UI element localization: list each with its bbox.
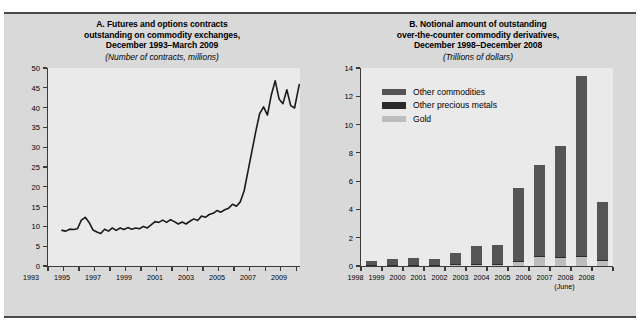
panel-b-subtitle: (Trillions of dollars) [320,52,636,62]
panel-b-x-tick [612,267,613,271]
panel-a: A. Futures and options contracts outstan… [4,14,320,316]
panel-a-y-tick [43,147,47,148]
legend-item-other-commodities: Other commodities [382,86,497,98]
panel-a-x-tick-label: 2005 [200,273,234,282]
panel-a-y-tick-label: 25 [18,163,40,172]
panel-a-y-tick [43,127,47,128]
bar-segment [450,253,462,264]
panel-a-line-svg [48,68,300,266]
panel-a-y-tick-label: 5 [18,242,40,251]
bar-segment [576,256,588,257]
panel-a-x-tick-label: 1999 [107,273,141,282]
panel-b-x-tick [381,267,382,271]
panel-a-x-tick [187,267,188,271]
panel-a-x-tick [265,267,266,271]
bar-segment [597,202,609,259]
legend-label-other-commodities: Other commodities [413,87,485,97]
panel-b-x-tick [486,267,487,271]
panel-a-plot-area [48,68,300,266]
bar-segment [450,264,462,265]
panel-a-x-tick-label: 2009 [262,273,296,282]
legend-item-other-precious-metals: Other precious metals [382,100,497,112]
bar-segment [555,258,567,266]
panel-a-subtitle: (Number of contracts, millions) [4,52,320,62]
panel-a-x-tick-label: 2007 [231,273,265,282]
panel-b-y-tick [356,67,360,68]
bar-segment [534,256,546,257]
panel-a-y-tick [43,265,47,266]
bar-segment [534,257,546,266]
legend-item-gold: Gold [382,113,497,125]
panel-a-title-line2: outstanding on commodity exchanges, [4,30,320,41]
panel-b-title-line3: December 1998–December 2008 [320,40,636,51]
panel-b-y-axis [360,68,361,266]
panel-a-x-tick-label: 1997 [76,273,110,282]
panel-a-x-tick [171,267,172,271]
panel-b-x-tick [402,267,403,271]
bar-segment [408,258,420,265]
panel-b-y-tick-label: 4 [331,205,353,214]
legend-label-gold: Gold [413,114,431,124]
panel-b-x-tick [423,267,424,271]
panel-a-x-tick [296,267,297,271]
panel-a-y-tick [43,206,47,207]
panel-b-y-tick-label: 0 [331,262,353,271]
panel-a-x-tick [249,267,250,271]
panel-b-y-tick-label: 6 [331,177,353,186]
bar-segment [366,261,378,265]
panel-b-y-tick [356,96,360,97]
panel-b-y-tick [356,265,360,266]
panel-a-x-tick [218,267,219,271]
panel-a-y-tick [43,246,47,247]
bar-segment [555,146,567,257]
panel-a-y-tick-label: 10 [18,222,40,231]
panel-a-title-line1: A. Futures and options contracts [4,19,320,30]
panel-b-y-tick [356,237,360,238]
panel-b-y-tick [356,209,360,210]
panel-b-x-tick [465,267,466,271]
panel-b-title-line1: B. Notional amount of outstanding [320,19,636,30]
bar-segment [492,245,504,263]
panel-a-x-tick [63,267,64,271]
legend-swatch-other-precious-metals [382,102,406,109]
panel-a-x-tick-label: 2001 [138,273,172,282]
panel-b-x-tick [528,267,529,271]
panel-b-y-tick-label: 8 [331,148,353,157]
bar-segment [555,257,567,258]
panel-a-title: A. Futures and options contracts outstan… [4,19,320,51]
panel-b-legend: Other commodities Other precious metals … [382,86,497,127]
panel-a-x-tick [156,267,157,271]
panel-b-y-tick [356,124,360,125]
panel-b-y-tick-label: 10 [331,120,353,129]
bar-segment [597,260,609,261]
bar-segment [534,165,546,256]
panel-a-x-tick [94,267,95,271]
legend-label-other-precious-metals: Other precious metals [413,100,497,110]
panel-a-x-tick-label: 2003 [169,273,203,282]
panel-b-y-tick [356,152,360,153]
panel-a-x-tick-label: 1993 [14,273,48,282]
panel-a-x-tick [140,267,141,271]
panel-a-x-tick [78,267,79,271]
panel-a-x-tick-label: 1995 [45,273,79,282]
panel-a-x-tick [233,267,234,271]
legend-swatch-other-commodities [382,89,406,96]
panel-a-y-tick-label: 20 [18,182,40,191]
panel-a-y-tick [43,87,47,88]
panel-a-y-tick-label: 0 [18,262,40,271]
panel-b-x-tick [549,267,550,271]
panel-a-y-tick [43,186,47,187]
panel-b-title-line2: over-the-counter commodity derivatives, [320,30,636,41]
bar-segment [387,259,399,265]
panel-a-x-tick [202,267,203,271]
panel-a-y-tick [43,67,47,68]
bar-segment [513,188,525,261]
panel-b-y-tick-label: 12 [331,92,353,101]
panel-b-y-tick-label: 2 [331,233,353,242]
bar-segment [471,264,483,265]
panel-a-x-tick [109,267,110,271]
bottom-rule [4,316,636,318]
panel-a-y-axis [47,68,48,266]
panel-a-y-tick [43,226,47,227]
bar-segment [492,264,504,265]
